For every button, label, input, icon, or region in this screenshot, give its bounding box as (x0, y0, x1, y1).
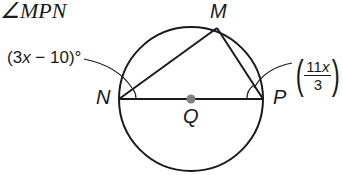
chord-mp (217, 28, 263, 99)
point-label-m: M (210, 0, 227, 23)
leader-line-n (84, 59, 132, 88)
point-label-n: N (96, 86, 110, 109)
angle-arc-p (247, 85, 254, 99)
point-label-q: Q (183, 105, 199, 128)
angle-label-p: ( 11x 3 ) (293, 53, 343, 97)
angle-label-n: (3x − 10)° (7, 48, 81, 68)
point-label-p: P (273, 86, 286, 109)
chord-nm (119, 28, 217, 99)
center-point-q (187, 95, 196, 104)
fraction: 11x 3 (304, 58, 331, 93)
angle-arc-n (133, 89, 136, 99)
